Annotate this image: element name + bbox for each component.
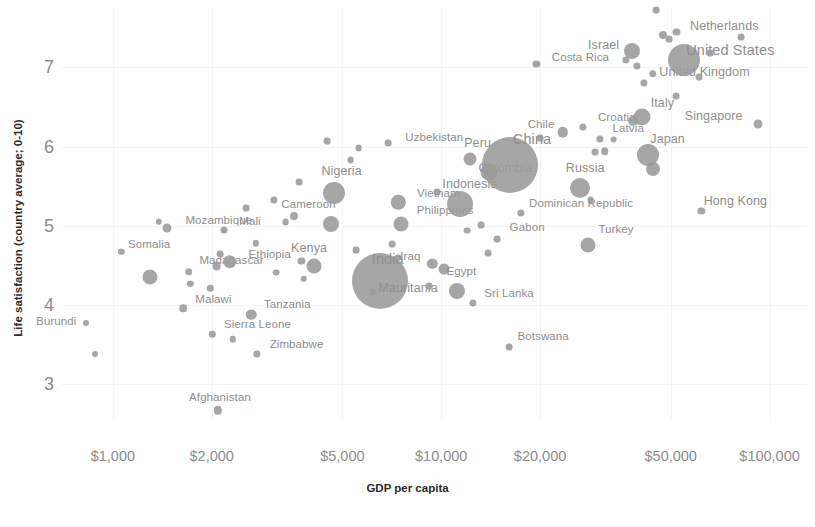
- data-point[interactable]: [646, 162, 660, 176]
- point-label: Gabon: [510, 221, 545, 233]
- data-point[interactable]: [353, 247, 360, 254]
- data-point[interactable]: [622, 56, 629, 63]
- data-point[interactable]: [296, 179, 303, 186]
- data-point[interactable]: [464, 227, 471, 234]
- data-point[interactable]: [558, 127, 568, 137]
- data-point[interactable]: [753, 120, 762, 129]
- data-point[interactable]: [347, 157, 354, 164]
- data-point[interactable]: [696, 74, 703, 81]
- point-label: Nigeria: [321, 164, 361, 178]
- data-point[interactable]: [628, 116, 638, 126]
- x-axis-tick-label: $20,000: [514, 448, 566, 464]
- point-label: Turkey: [598, 223, 633, 235]
- data-point[interactable]: [427, 259, 437, 269]
- point-label: Tanzania: [264, 298, 311, 310]
- point-label: Dominican Republic: [529, 197, 633, 209]
- data-point[interactable]: [433, 188, 440, 195]
- data-point[interactable]: [143, 270, 158, 285]
- point-label: Mali: [239, 215, 261, 227]
- point-label: Russia: [566, 161, 605, 175]
- data-point[interactable]: [698, 207, 705, 214]
- data-point[interactable]: [666, 35, 673, 42]
- point-label: Afghanistan: [189, 391, 251, 403]
- data-point[interactable]: [162, 224, 171, 233]
- x-axis-tick-label: $5,000: [320, 448, 364, 464]
- data-point[interactable]: [601, 148, 609, 156]
- data-point[interactable]: [83, 320, 89, 326]
- data-point[interactable]: [209, 331, 215, 337]
- point-label: Italy: [651, 96, 674, 110]
- data-point[interactable]: [389, 241, 396, 248]
- data-point[interactable]: [447, 191, 473, 217]
- data-point[interactable]: [570, 178, 590, 198]
- data-point[interactable]: [252, 240, 258, 246]
- data-point[interactable]: [426, 283, 433, 290]
- data-point[interactable]: [180, 304, 188, 312]
- data-point[interactable]: [217, 251, 224, 258]
- data-point[interactable]: [301, 276, 307, 282]
- data-point[interactable]: [641, 80, 648, 87]
- data-point[interactable]: [271, 196, 278, 203]
- data-point[interactable]: [673, 93, 680, 100]
- gridline-vertical: [342, 8, 343, 420]
- x-axis-tick-label: $50,000: [645, 448, 697, 464]
- x-axis-tick-label: $2,000: [190, 448, 234, 464]
- data-point[interactable]: [185, 268, 193, 276]
- data-point[interactable]: [707, 50, 714, 57]
- point-label: United States: [686, 42, 774, 58]
- data-point[interactable]: [282, 219, 289, 226]
- point-label: Japan: [650, 132, 685, 146]
- data-point[interactable]: [242, 205, 249, 212]
- data-point[interactable]: [517, 210, 524, 217]
- data-point[interactable]: [610, 136, 617, 143]
- data-point[interactable]: [273, 269, 280, 276]
- data-point[interactable]: [391, 195, 405, 209]
- data-point[interactable]: [494, 236, 501, 243]
- data-point[interactable]: [290, 212, 298, 220]
- data-point[interactable]: [385, 140, 392, 147]
- data-point[interactable]: [323, 216, 339, 232]
- data-point[interactable]: [323, 182, 345, 204]
- gridline-vertical: [770, 8, 771, 420]
- data-point[interactable]: [581, 237, 596, 252]
- data-point[interactable]: [187, 281, 193, 287]
- data-point[interactable]: [298, 257, 305, 264]
- point-label: Kenya: [291, 241, 327, 255]
- data-point[interactable]: [230, 336, 236, 342]
- data-point[interactable]: [394, 217, 409, 232]
- data-point[interactable]: [307, 258, 322, 273]
- data-point[interactable]: [477, 222, 484, 229]
- data-point[interactable]: [92, 351, 98, 357]
- gridline-horizontal: [62, 147, 807, 148]
- point-label: Zimbabwe: [270, 338, 324, 350]
- data-point[interactable]: [506, 344, 513, 351]
- gridline-horizontal: [62, 384, 807, 385]
- data-point[interactable]: [652, 7, 659, 14]
- data-point[interactable]: [537, 135, 544, 142]
- data-point[interactable]: [220, 226, 227, 233]
- data-point[interactable]: [214, 406, 222, 414]
- point-label: Sierra Leone: [224, 318, 291, 330]
- data-point[interactable]: [253, 351, 260, 358]
- data-point[interactable]: [355, 145, 362, 152]
- data-point[interactable]: [118, 249, 124, 255]
- data-point[interactable]: [579, 123, 586, 130]
- data-point[interactable]: [673, 28, 680, 35]
- data-point[interactable]: [212, 262, 221, 271]
- data-point[interactable]: [587, 196, 594, 203]
- data-point[interactable]: [597, 135, 604, 142]
- point-label: Ethiopia: [249, 248, 291, 260]
- point-label: Chile: [528, 118, 555, 130]
- data-point[interactable]: [223, 255, 237, 269]
- data-point[interactable]: [738, 34, 745, 41]
- data-point[interactable]: [463, 153, 476, 166]
- data-point[interactable]: [449, 283, 465, 299]
- data-point[interactable]: [649, 70, 657, 78]
- gridline-vertical: [113, 8, 114, 420]
- data-point[interactable]: [324, 138, 331, 145]
- point-label: Iraq: [400, 250, 420, 262]
- point-label: Hong Kong: [704, 194, 767, 208]
- data-point[interactable]: [485, 249, 492, 256]
- data-point[interactable]: [592, 149, 599, 156]
- data-point[interactable]: [156, 219, 162, 225]
